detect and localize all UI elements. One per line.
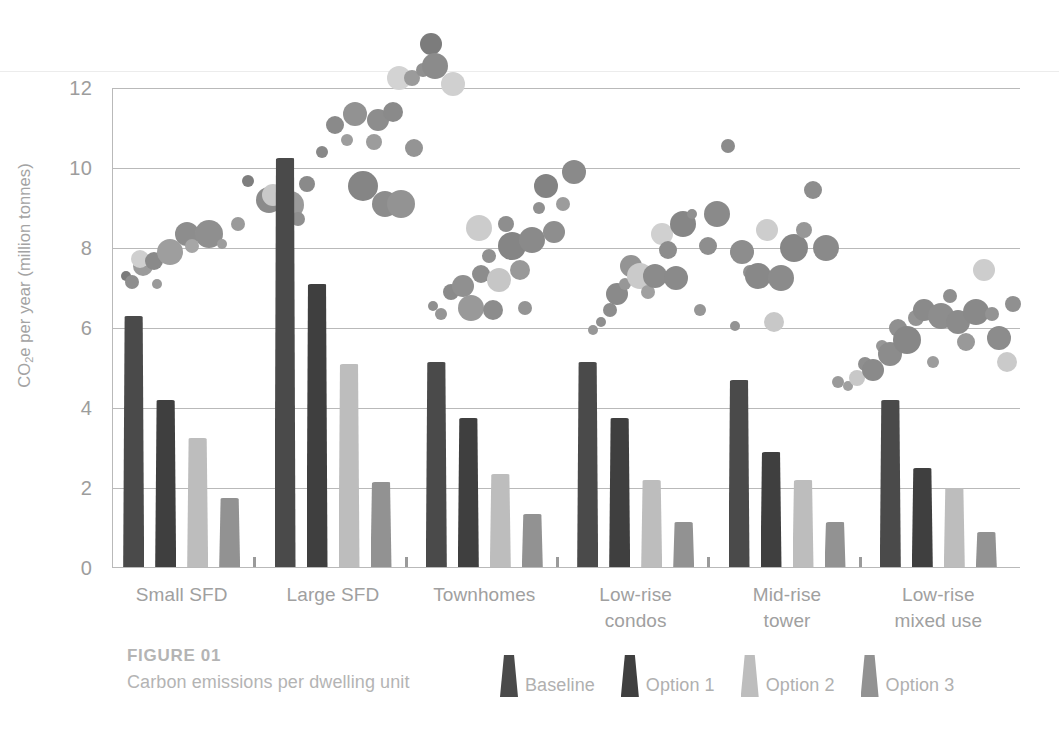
scatter-bubble bbox=[441, 72, 465, 96]
scatter-bubble bbox=[383, 102, 403, 122]
scatter-bubble bbox=[452, 275, 474, 297]
legend-swatch bbox=[861, 655, 879, 697]
top-divider-rule bbox=[0, 71, 1059, 72]
y-tick-label: 10 bbox=[48, 157, 92, 180]
scatter-bubble bbox=[125, 275, 139, 289]
scatter-bubble bbox=[893, 326, 921, 354]
category-label-line: Townhomes bbox=[404, 582, 564, 608]
scatter-bubble bbox=[343, 102, 367, 126]
bar bbox=[761, 452, 782, 568]
scatter-bubble bbox=[231, 217, 245, 231]
bar-shape bbox=[275, 158, 296, 568]
scatter-bubble bbox=[780, 234, 808, 262]
y-tick-label: 0 bbox=[48, 557, 92, 580]
y-tick-label: 2 bbox=[48, 477, 92, 500]
legend-item-option-3[interactable]: Option 3 bbox=[861, 655, 955, 697]
bar-shape bbox=[944, 488, 965, 568]
bar bbox=[219, 498, 240, 568]
gridline-8 bbox=[112, 248, 1020, 249]
category-label-line: condos bbox=[556, 608, 716, 634]
category-label-line: mixed use bbox=[858, 608, 1018, 634]
bar-shape bbox=[729, 380, 750, 568]
legend-swatch bbox=[741, 655, 759, 697]
scatter-bubble bbox=[562, 160, 586, 184]
y-axis-title: CO2e per year (million tonnes) bbox=[15, 111, 34, 441]
bar-shape bbox=[609, 418, 630, 568]
scatter-bubble bbox=[341, 134, 353, 146]
scatter-bubble bbox=[482, 249, 496, 263]
bar bbox=[275, 158, 296, 568]
bar-shape bbox=[761, 452, 782, 568]
scatter-bubble bbox=[466, 215, 492, 241]
category-label-0: Small SFD bbox=[102, 582, 262, 608]
bar bbox=[880, 400, 901, 568]
bar-shape bbox=[880, 400, 901, 568]
y-axis-line bbox=[112, 88, 113, 568]
scatter-bubble bbox=[730, 240, 754, 264]
category-label-line: Low-rise bbox=[858, 582, 1018, 608]
bar bbox=[458, 418, 479, 568]
bar bbox=[609, 418, 630, 568]
bar bbox=[339, 364, 360, 568]
scatter-bubble bbox=[387, 190, 415, 218]
scatter-bubble bbox=[483, 300, 503, 320]
scatter-bubble bbox=[997, 352, 1017, 372]
scatter-bubble bbox=[518, 301, 532, 315]
bar bbox=[673, 522, 694, 568]
scatter-bubble bbox=[596, 317, 606, 327]
legend-item-option-2[interactable]: Option 2 bbox=[741, 655, 835, 697]
scatter-bubble bbox=[533, 202, 545, 214]
figure-number: FIGURE 01 bbox=[127, 643, 527, 668]
category-label-4: Mid-risetower bbox=[707, 582, 867, 634]
bar-shape bbox=[673, 522, 694, 568]
plot-area bbox=[112, 88, 1020, 568]
legend-label: Option 3 bbox=[886, 675, 955, 695]
bar-shape bbox=[187, 438, 208, 568]
scatter-bubble bbox=[768, 265, 794, 291]
scatter-bubble bbox=[519, 227, 545, 253]
scatter-bubble bbox=[943, 289, 957, 303]
bar bbox=[729, 380, 750, 568]
scatter-bubble bbox=[985, 307, 999, 321]
bar bbox=[426, 362, 447, 568]
bar bbox=[793, 480, 814, 568]
figure-caption: Carbon emissions per dwelling unit bbox=[127, 668, 527, 696]
scatter-bubble bbox=[927, 356, 939, 368]
category-label-line: tower bbox=[707, 608, 867, 634]
legend-item-baseline[interactable]: Baseline bbox=[500, 655, 595, 697]
scatter-bubble bbox=[704, 201, 730, 227]
scatter-bubble bbox=[603, 303, 617, 317]
scatter-bubble bbox=[764, 312, 784, 332]
y-axis-ticks: 024681012 bbox=[44, 88, 92, 568]
legend-item-option-1[interactable]: Option 1 bbox=[621, 655, 715, 697]
bar-shape bbox=[793, 480, 814, 568]
bar-shape bbox=[123, 316, 144, 568]
bar bbox=[307, 284, 328, 568]
scatter-bubble bbox=[721, 139, 735, 153]
figure-caption-block: FIGURE 01 Carbon emissions per dwelling … bbox=[127, 643, 527, 696]
bar-shape bbox=[912, 468, 933, 568]
scatter-bubble bbox=[588, 325, 598, 335]
scatter-bubble bbox=[804, 181, 822, 199]
bar-shape bbox=[426, 362, 447, 568]
bar-shape bbox=[490, 474, 511, 568]
bar bbox=[123, 316, 144, 568]
bar-shape bbox=[825, 522, 846, 568]
scatter-bubble bbox=[957, 333, 975, 351]
bar-shape bbox=[641, 480, 662, 568]
scatter-bubble bbox=[326, 116, 344, 134]
category-label-line: Low-rise bbox=[556, 582, 716, 608]
gridline-6 bbox=[112, 328, 1020, 329]
bar bbox=[976, 532, 997, 568]
scatter-bubble bbox=[543, 221, 565, 243]
scatter-bubble bbox=[458, 295, 484, 321]
bar-shape bbox=[307, 284, 328, 568]
y-tick-label: 4 bbox=[48, 397, 92, 420]
scatter-bubble bbox=[699, 237, 717, 255]
bar bbox=[187, 438, 208, 568]
scatter-bubble bbox=[973, 259, 995, 281]
scatter-bubble bbox=[534, 174, 558, 198]
bar bbox=[490, 474, 511, 568]
category-label-line: Small SFD bbox=[102, 582, 262, 608]
category-label-3: Low-risecondos bbox=[556, 582, 716, 634]
